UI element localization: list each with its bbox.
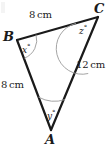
angle-z-degree-symbol: ° bbox=[84, 24, 88, 32]
side-label-ba: 8cm bbox=[1, 80, 24, 90]
side-bc-value: 8 bbox=[29, 9, 35, 20]
angle-label-z: z° bbox=[79, 25, 87, 36]
side-ca-unit: cm bbox=[90, 59, 105, 70]
side-label-bc: 8cm bbox=[29, 10, 52, 20]
vertex-label-b: B bbox=[3, 30, 14, 43]
angle-arc-y bbox=[39, 97, 66, 101]
side-bc-unit: cm bbox=[37, 9, 52, 20]
vertex-label-a: A bbox=[45, 133, 55, 146]
angle-x-degree-symbol: ° bbox=[27, 43, 31, 51]
triangle-drawing bbox=[0, 0, 112, 149]
side-ca-value: 12 bbox=[76, 59, 89, 70]
side-label-ca: 12cm bbox=[76, 60, 105, 70]
side-ba-value: 8 bbox=[1, 79, 7, 90]
angle-label-x: x° bbox=[22, 44, 31, 55]
vertex-label-c: C bbox=[94, 2, 104, 15]
side-ba-unit: cm bbox=[9, 79, 24, 90]
triangle-figure: B C A 8cm 8cm 12cm x° z° y° bbox=[0, 0, 112, 149]
angle-y-degree-symbol: ° bbox=[52, 109, 56, 117]
angle-label-y: y° bbox=[47, 110, 56, 121]
